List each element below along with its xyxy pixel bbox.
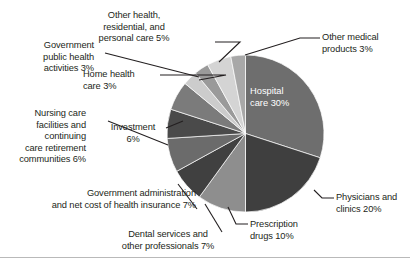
label-other-medical-products: Other medical products 3% [322, 32, 406, 55]
label-prescription-drugs: Prescription drugs 10% [250, 219, 336, 242]
label-investment: Investment 6% [102, 122, 164, 145]
label-home-health-care: Home health care 3% [83, 69, 161, 92]
bottom-divider [0, 257, 410, 258]
label-other-health-residential: Other health, residential, and personal … [78, 10, 190, 45]
label-hospital-care: Hospital care 30% [250, 86, 316, 109]
label-government-public-health: Government public health activities 3% [6, 40, 94, 75]
label-nursing-care: Nursing care facilities and continuing c… [6, 108, 86, 166]
label-physicians-clinics: Physicians and clinics 20% [336, 192, 408, 215]
leader-line-other-medical-products [245, 38, 320, 55]
label-dental-services: Dental services and other professionals … [108, 229, 228, 252]
label-government-administration: Government administration and net cost o… [6, 188, 196, 211]
leader-line-physicians-clinics [314, 190, 334, 198]
leader-line-dental-services [205, 204, 222, 232]
pie-chart-figure: Other health, residential, and personal … [0, 0, 410, 270]
